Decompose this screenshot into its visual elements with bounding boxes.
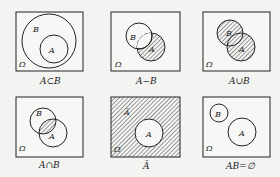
label-b: B: [214, 110, 221, 119]
label-a: A: [148, 45, 155, 54]
caption: Ā: [142, 160, 150, 171]
panel-subset: B A Ω A⊂B: [16, 12, 83, 86]
label-omega: Ω: [113, 145, 121, 154]
caption: A∩B: [38, 160, 60, 170]
label-omega: Ω: [205, 60, 213, 69]
label-a: A: [48, 132, 55, 141]
panel-complement: Ā A Ω Ā: [111, 97, 180, 171]
caption: A∪B: [228, 76, 250, 86]
label-b: B: [32, 25, 39, 34]
label-a: A: [48, 46, 55, 55]
caption: A−B: [135, 76, 157, 86]
label-a: A: [145, 130, 152, 139]
venn-diagram-grid: B A Ω A⊂B B A Ω A−B B A Ω A∪B B A Ω A∩B: [0, 0, 280, 177]
panel-intersection: B A Ω A∩B: [16, 97, 83, 170]
label-omega: Ω: [18, 144, 26, 153]
label-omega: Ω: [18, 60, 26, 69]
label-b: B: [225, 29, 232, 38]
label-a: A: [238, 129, 245, 138]
label-complement: Ā: [123, 108, 130, 117]
caption: AB=∅: [225, 161, 256, 171]
label-b: B: [129, 33, 136, 42]
panel-disjoint: B A Ω AB=∅: [203, 97, 270, 171]
caption: A⊂B: [39, 76, 61, 86]
label-omega: Ω: [114, 60, 122, 69]
panel-difference: B A Ω A−B: [111, 12, 180, 86]
panel-union: B A Ω A∪B: [203, 12, 270, 86]
label-omega: Ω: [205, 144, 213, 153]
label-a: A: [238, 45, 245, 54]
label-b: B: [35, 109, 42, 118]
